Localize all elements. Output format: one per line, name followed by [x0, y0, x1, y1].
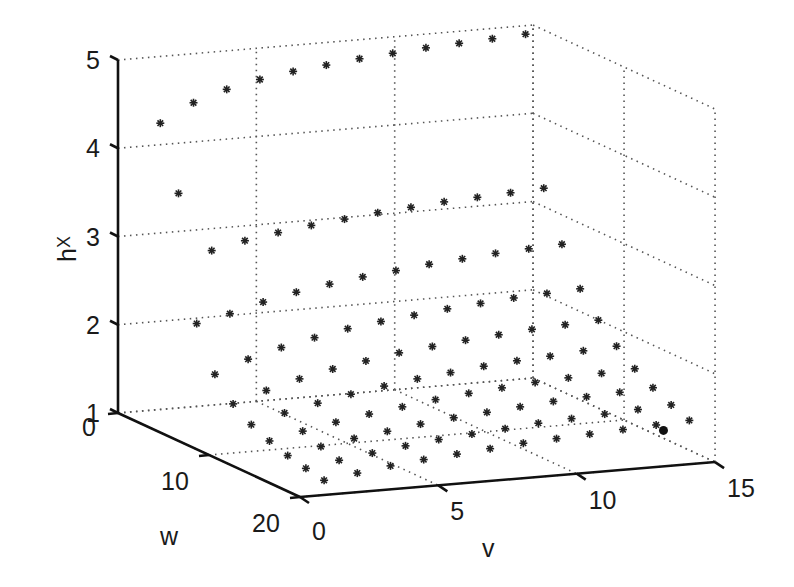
asterisk-marker — [568, 415, 576, 423]
asterisk-marker — [395, 349, 403, 357]
asterisk-marker — [528, 325, 536, 333]
v-tick-label: 15 — [727, 474, 755, 502]
z-axis-label-h: h — [53, 248, 81, 262]
asterisk-marker — [413, 375, 421, 383]
z-axis-label: h X — [53, 236, 81, 262]
asterisk-marker — [190, 99, 198, 107]
asterisk-marker — [601, 410, 609, 418]
w-tick-label: 20 — [252, 509, 280, 537]
grid-lines — [118, 25, 715, 497]
asterisk-marker — [296, 375, 304, 383]
tick-labels: 1234501020051015 — [82, 46, 755, 545]
asterisk-marker — [667, 401, 675, 409]
grid-line-floor-w — [209, 420, 624, 455]
asterisk-marker — [498, 384, 506, 392]
z-tick-label: 4 — [86, 134, 100, 162]
asterisk-marker — [417, 420, 425, 428]
asterisk-marker — [425, 260, 433, 268]
asterisk-marker — [341, 215, 349, 223]
asterisk-marker — [299, 427, 307, 435]
grid-line-back-h — [118, 25, 533, 60]
asterisk-marker — [374, 209, 382, 217]
data-points — [156, 30, 693, 484]
asterisk-marker — [193, 320, 201, 328]
asterisk-marker — [561, 321, 569, 329]
w-tick — [199, 455, 209, 456]
asterisk-marker — [398, 403, 406, 411]
asterisk-marker — [546, 352, 554, 360]
chart-3d-scatter: 1234501020051015 w v h X — [0, 0, 794, 587]
v-tick-label: 5 — [450, 497, 464, 525]
asterisk-marker — [229, 400, 237, 408]
asterisk-marker — [329, 365, 337, 373]
asterisk-marker — [594, 316, 602, 324]
w-tick — [290, 497, 300, 498]
asterisk-marker — [322, 61, 330, 69]
asterisk-marker — [281, 409, 289, 417]
asterisk-marker — [387, 462, 395, 470]
asterisk-marker — [534, 419, 542, 427]
asterisk-marker — [244, 355, 252, 363]
asterisk-marker — [407, 203, 415, 211]
asterisk-marker — [540, 184, 548, 192]
asterisk-marker — [453, 450, 461, 458]
asterisk-marker — [553, 435, 561, 443]
asterisk-marker — [443, 305, 451, 313]
asterisk-marker — [350, 434, 358, 442]
asterisk-marker — [531, 378, 539, 386]
grid-line-back-h — [118, 113, 533, 148]
asterisk-marker — [402, 442, 410, 450]
asterisk-marker — [519, 439, 527, 447]
asterisk-marker — [311, 334, 319, 342]
asterisk-marker — [462, 336, 470, 344]
asterisk-marker — [458, 255, 466, 263]
asterisk-marker — [477, 299, 485, 307]
asterisk-marker — [266, 437, 274, 445]
asterisk-marker — [274, 229, 282, 237]
asterisk-marker — [226, 310, 234, 318]
asterisk-marker — [507, 189, 515, 197]
asterisk-marker — [302, 464, 310, 472]
grid-line-back-h — [118, 290, 533, 325]
w-tick — [108, 413, 118, 414]
asterisk-marker — [317, 443, 325, 451]
asterisk-marker — [579, 347, 587, 355]
asterisk-marker — [586, 430, 594, 438]
asterisk-marker — [598, 369, 606, 377]
asterisk-marker — [320, 476, 328, 484]
asterisk-marker — [365, 410, 373, 418]
asterisk-marker — [292, 288, 300, 296]
asterisk-marker — [488, 35, 496, 43]
asterisk-marker — [616, 388, 624, 396]
asterisk-marker — [262, 386, 270, 394]
w-tick-label: 0 — [82, 413, 96, 441]
v-axis-line — [300, 462, 715, 497]
asterisk-marker — [549, 397, 557, 405]
asterisk-marker — [522, 30, 530, 38]
asterisk-marker — [450, 414, 458, 422]
asterisk-marker — [501, 425, 509, 433]
asterisk-marker — [576, 285, 584, 293]
asterisk-marker — [558, 240, 566, 248]
asterisk-marker — [492, 249, 500, 257]
asterisk-marker — [483, 408, 491, 416]
asterisk-marker — [289, 67, 297, 75]
grid-line-side-h — [533, 290, 715, 374]
grid-line-back-h — [118, 202, 533, 237]
asterisk-marker — [211, 370, 219, 378]
asterisk-marker — [685, 416, 693, 424]
asterisk-marker — [613, 342, 621, 350]
asterisk-marker — [410, 311, 418, 319]
asterisk-marker — [516, 403, 524, 411]
asterisk-marker — [652, 421, 660, 429]
asterisk-marker — [326, 280, 334, 288]
asterisk-marker — [389, 49, 397, 57]
x-axis-label-v: v — [482, 534, 495, 562]
y-axis-label-w: w — [159, 522, 179, 550]
asterisk-marker — [468, 430, 476, 438]
v-tick-label: 10 — [589, 486, 617, 514]
asterisk-marker — [649, 384, 657, 392]
asterisk-marker — [344, 325, 352, 333]
asterisk-marker — [307, 221, 315, 229]
asterisk-marker — [420, 456, 428, 464]
